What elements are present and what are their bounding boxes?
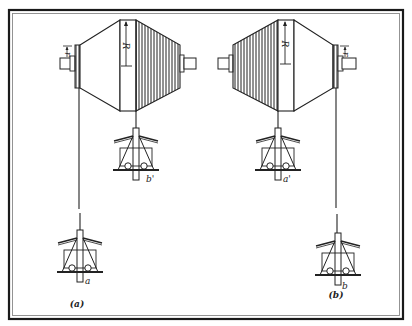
radius-label-R: R xyxy=(280,40,290,48)
radius-label-R: R xyxy=(121,42,131,50)
center-cylinder xyxy=(120,20,136,111)
weight-stand-b-prime xyxy=(113,128,159,180)
weight-stand-a xyxy=(57,230,103,282)
small-end-face xyxy=(333,45,338,88)
plain-cone xyxy=(294,20,333,111)
right-shaft xyxy=(184,58,196,69)
stand-label-a-prime: a' xyxy=(283,174,291,184)
right-shaft xyxy=(342,58,356,69)
center-cylinder xyxy=(278,20,294,111)
panel-a: R r b' a (a) xyxy=(57,20,196,309)
plain-cone xyxy=(80,20,120,111)
caption-a: (a) xyxy=(70,299,84,309)
left-shaft xyxy=(218,58,230,69)
small-end-face xyxy=(75,45,80,88)
radius-label-r: r xyxy=(341,52,351,57)
caption-b: (b) xyxy=(329,290,344,300)
weight-stand-a-prime xyxy=(255,128,301,180)
double-cone-drum-diagram: R r b' a (a) xyxy=(0,0,412,326)
weight-stand-b xyxy=(315,233,361,285)
radius-label-r: r xyxy=(63,52,73,57)
stand-label-b-prime: b' xyxy=(146,174,154,184)
grooved-cone xyxy=(136,20,180,111)
panel-b: R r a' b (b) xyxy=(218,20,361,300)
stand-label-a: a xyxy=(85,276,90,286)
grooved-cone xyxy=(233,20,278,111)
